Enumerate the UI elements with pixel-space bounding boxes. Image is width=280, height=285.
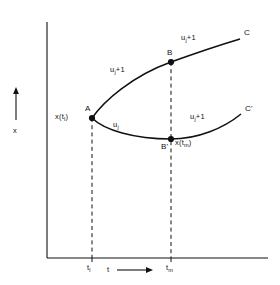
x-tick-label-left: tl [87,264,91,272]
value-label-x-t-l-tail: ) [65,112,68,121]
control-label-lower-first: uj [113,121,119,129]
x-axis-label: t [107,266,109,274]
x-tick-label-right: tm [166,264,173,272]
point-label-cprime: C' [245,105,253,113]
control-label-upper-second: uj+1 [181,34,196,42]
diagram-canvas [0,0,280,285]
control-label-upper-first: uj+1 [110,66,125,74]
right-arrow-icon [117,267,153,273]
curve-bprime-to-cprime [171,114,241,139]
curve-a-to-bprime [92,118,171,139]
control-lower-first-sub: j [117,124,118,130]
value-label-x-t-m: x(tm) [175,139,192,147]
value-label-x-t-m-tail: ) [189,138,192,147]
point-label-c: C [244,29,250,37]
control-upper-first-sub: j [114,69,115,75]
node-point-b [168,59,174,65]
value-label-x-t-l: x(tl) [55,113,68,121]
x-tick-left-sub: l [89,267,90,273]
point-label-a: A [85,105,91,113]
node-point-a [89,115,95,121]
control-lower-second-sub: j [194,116,195,122]
up-arrow-icon [13,87,19,120]
node-point-bprime [168,136,174,142]
control-upper-second-sub: j [185,37,186,43]
point-label-bprime: B' [161,143,168,151]
figure-diagram: x t tl tm A x(tl) B B' x(tm) C C' uj uj+… [0,0,280,285]
value-label-x-t-m-sub: m [184,142,189,148]
point-label-b: B [167,49,173,57]
control-label-lower-second: uj+1 [190,113,205,121]
curve-b-to-c [171,39,240,62]
x-tick-right-sub: m [168,267,173,273]
value-label-x-t-l-base: x(t [55,112,64,121]
control-lower-second-tail: +1 [196,112,205,121]
value-label-x-t-m-base: x(t [175,138,184,147]
control-upper-second-tail: +1 [187,33,196,42]
curve-a-to-b [92,62,171,118]
control-upper-first-tail: +1 [116,65,125,74]
y-axis-label: x [13,127,17,135]
